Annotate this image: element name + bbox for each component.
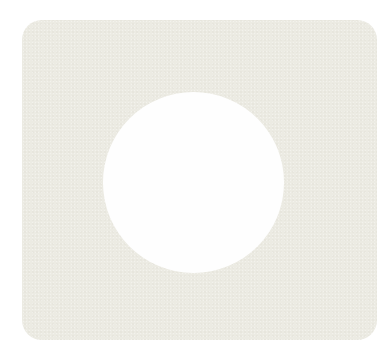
circular-cutout — [103, 92, 284, 273]
canvas — [0, 0, 389, 354]
